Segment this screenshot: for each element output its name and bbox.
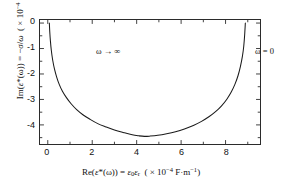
figure-canvas: ω → ∞ ω = 0 0 2 4 6 8 0 -1 -2 -3 -4 Re(ε… (0, 0, 282, 188)
x-tick-label-2: 4 (127, 147, 147, 157)
annotation-omega-infinity: ω → ∞ (96, 46, 120, 56)
y-tick-label-4: -4 (19, 120, 35, 130)
data-curve (49, 23, 245, 136)
x-tick-label-4: 8 (216, 147, 236, 157)
tick-marks-group (40, 20, 260, 144)
plot-area: ω → ∞ ω = 0 (39, 19, 261, 145)
x-tick-label-1: 2 (82, 147, 102, 157)
x-axis-title: Re(ε*(ω)) = ε0εr ( × 10−4 F·m−1) (0, 166, 282, 177)
y-axis-title-wrap: Im(ε*(ω)) = −σ/ω ( × 10−4 S·m−1·s) (9, 0, 27, 104)
x-tick-label-0: 0 (37, 147, 57, 157)
x-tick-label-3: 6 (171, 147, 191, 157)
y-axis-title: Im(ε*(ω)) = −σ/ω ( × 10−4 S·m−1·s) (14, 0, 25, 99)
annotation-omega-zero: ω = 0 (255, 46, 274, 56)
plot-svg (40, 20, 260, 144)
